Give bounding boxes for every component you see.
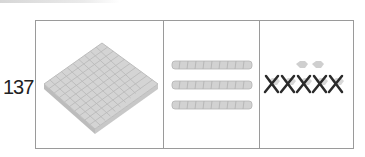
ten-rods-group: [164, 21, 259, 148]
ten-rod-icon: [172, 81, 252, 89]
tens-cell: [164, 21, 260, 148]
crossed-unit-cube-icon: [297, 76, 312, 92]
crossed-out-cubes: [265, 76, 344, 92]
hundred-flat-icon: [36, 21, 163, 148]
crossed-unit-cube-icon: [265, 76, 280, 92]
ten-rod-icon: [172, 101, 252, 109]
hundreds-cell: [36, 21, 164, 148]
crossed-unit-cube-icon: [281, 76, 296, 92]
unit-cubes-group: [260, 21, 354, 148]
crossed-unit-cube-icon: [313, 76, 328, 92]
crossed-unit-cube-icon: [329, 76, 344, 92]
unit-cube-icon: [312, 61, 324, 68]
ten-rod-icon: [172, 61, 252, 69]
place-value-table: [35, 20, 354, 149]
unit-cube-icon: [296, 61, 308, 68]
number-label: 137: [3, 76, 33, 99]
ones-cell: [260, 21, 353, 148]
cropped-heading-fragment: [0, 0, 120, 3]
